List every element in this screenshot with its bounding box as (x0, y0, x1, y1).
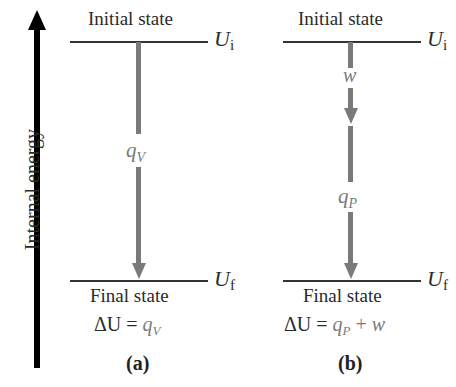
work-arrow-shaft-bottom (348, 88, 353, 110)
caption-b: (b) (338, 352, 362, 375)
heat-label-qP: qP (338, 184, 357, 212)
final-state-label: Final state (90, 285, 169, 307)
final-level-line (70, 280, 208, 282)
equation-a: ΔU = qV (94, 313, 161, 339)
heat-arrow-shaft-bottom (348, 212, 353, 263)
initial-state-label: Initial state (298, 8, 383, 30)
work-arrowhead-icon (344, 108, 358, 124)
work-label-w: w (343, 64, 356, 87)
heat-arrow-shaft-top (136, 42, 141, 134)
heat-arrow-shaft-bottom (136, 167, 141, 263)
energy-final: Uf (214, 266, 235, 294)
axis-arrowhead-icon (28, 10, 46, 30)
heat-arrowhead-icon (344, 263, 358, 279)
heat-arrow-shaft-top (348, 126, 353, 182)
heat-label-qV: qV (126, 138, 145, 166)
initial-state-label: Initial state (88, 8, 173, 30)
final-level-line (283, 280, 421, 282)
heat-arrowhead-icon (132, 263, 146, 279)
energy-initial: Ui (427, 26, 447, 54)
final-state-label: Final state (303, 285, 382, 307)
energy-final: Uf (427, 266, 448, 294)
axis-label: Internal energy (21, 120, 44, 260)
equation-b: ΔU = qP + w (284, 313, 385, 339)
caption-a: (a) (126, 352, 149, 375)
energy-initial: Ui (214, 26, 234, 54)
